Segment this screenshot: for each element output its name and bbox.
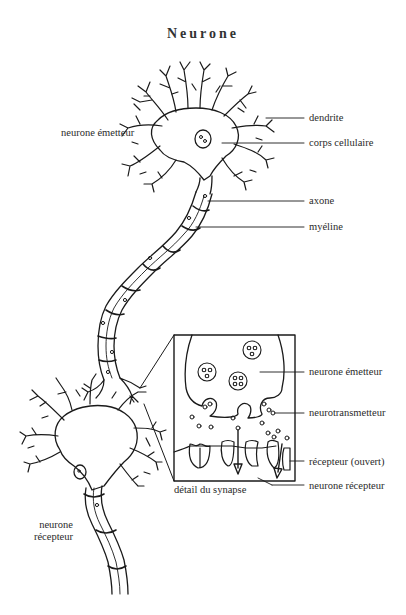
receiver-neuron — [20, 374, 166, 594]
label-receiver-neuron-line1: neurone — [36, 519, 73, 531]
nodes-of-ranvier — [98, 206, 209, 362]
axon-myelin — [82, 192, 212, 404]
label-dendrite: dendrite — [309, 112, 343, 124]
label-synapse-receiver-neuron: neurone récepteur — [309, 480, 385, 492]
schwann-nuclei — [101, 194, 206, 373]
receiver-axon-right-edge — [101, 486, 128, 594]
sender-nucleus — [195, 130, 211, 148]
ion-flow-arrows — [234, 430, 282, 478]
label-myelin: myéline — [309, 221, 343, 233]
neurotransmitters — [190, 402, 289, 440]
axon-terminal-left — [82, 380, 104, 400]
sender-axon-hillock — [196, 176, 212, 194]
sender-cell-body — [151, 108, 238, 180]
receptors — [189, 441, 290, 471]
label-receiver-neuron-line2: récepteur — [30, 531, 73, 543]
synaptic-vesicles — [198, 341, 261, 390]
synapse-detail-caption: détail du synapse — [174, 484, 246, 496]
label-synapse-sender-neuron: neurone émetteur — [309, 366, 382, 378]
label-neurotransmitter: neurotransmetteur — [309, 407, 385, 419]
label-axon: axone — [309, 195, 334, 207]
synapse-detail-box — [140, 335, 295, 481]
open-receptor — [283, 448, 291, 470]
label-sender-neuron: neurone émetteur — [61, 127, 134, 139]
label-receptor-open: récepteur (ouvert) — [309, 456, 385, 468]
receiver-dendrites — [20, 374, 166, 486]
receiver-cell-body — [55, 405, 137, 490]
label-cell-body: corps cellulaire — [309, 137, 373, 149]
axon-left-edge — [98, 192, 196, 380]
sender-neuron — [120, 62, 274, 194]
axon-right-edge — [114, 194, 212, 378]
